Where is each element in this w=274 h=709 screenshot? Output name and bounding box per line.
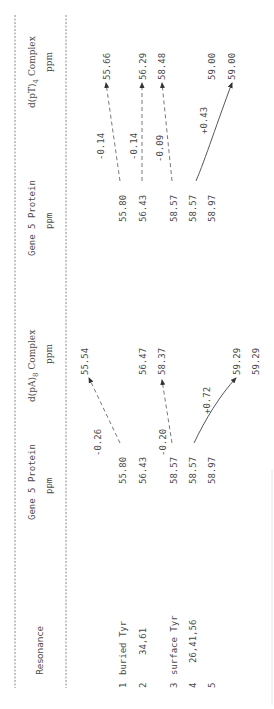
resonance-row-4: 4 26,41,56 — [188, 620, 198, 688]
svg-text:ppm: ppm — [44, 343, 54, 364]
shift-label-pa8-4: +0.72 — [202, 387, 212, 414]
svg-text:surface Tyr: surface Tyr — [169, 615, 179, 675]
dpt4-row-5: 59.00 — [227, 53, 237, 80]
gene5-a-row-3: 58.57 — [169, 457, 179, 484]
header-gene5-protein-a: Gene 5 Protein ppm — [27, 444, 54, 520]
gene5-a-row-5: 58.97 — [207, 457, 217, 484]
svg-text:1: 1 — [118, 683, 128, 688]
shift-arrow-pa8-4 — [194, 378, 236, 443]
svg-text:3: 3 — [169, 683, 179, 688]
header-gene5-protein-b: Gene 5 Protein ppm — [27, 180, 54, 256]
gene5-a-row-4: 58.57 — [188, 457, 198, 484]
svg-text:d(pA)8 Complex: d(pA)8 Complex — [27, 330, 40, 402]
svg-text:ppm: ppm — [44, 478, 54, 494]
dpa8-row-1: 55.54 — [80, 348, 90, 375]
svg-text:Gene 5 Protein: Gene 5 Protein — [27, 180, 37, 256]
svg-text:d(pT)4 Complex: d(pT)4 Complex — [27, 36, 40, 108]
svg-text:ppm: ppm — [44, 51, 54, 72]
shift-label-pa8-1: -0.26 — [93, 429, 103, 456]
resonance-row-1: 1 buried Tyr — [118, 620, 128, 688]
svg-text:Gene 5 Protein: Gene 5 Protein — [27, 444, 37, 520]
header-dpt4-complex: d(pT)4 Complex ppm — [27, 36, 54, 108]
svg-text:5: 5 — [207, 683, 217, 688]
shift-label-pt4-3: -0.09 — [155, 135, 165, 162]
dpt4-row-3: 58.48 — [157, 53, 167, 80]
shift-label-pt4-4: +0.43 — [199, 107, 209, 134]
shift-arrow-pt4-3 — [162, 83, 172, 181]
gene5-b-row-5: 58.97 — [207, 195, 217, 222]
resonance-row-2: 2 34,61 — [138, 628, 148, 688]
gene5-b-row-3: 58.57 — [169, 195, 179, 222]
gene5-b-row-2: 56.43 — [138, 195, 148, 222]
dpa8-row-3: 58.37 — [157, 348, 167, 375]
shift-label-pa8-3: -0.20 — [158, 429, 168, 456]
svg-text:4: 4 — [188, 683, 198, 688]
dpa8-row-4: 59.29 — [232, 348, 242, 375]
resonance-row-5: 5 — [207, 683, 217, 688]
header-dpa8-complex: d(pA)8 Complex ppm — [27, 330, 54, 402]
svg-text:buried Tyr: buried Tyr — [118, 620, 128, 675]
dpa8-row-2: 56.47 — [138, 348, 148, 375]
dpt4-row-4: 59.00 — [207, 53, 217, 80]
svg-text:26,41,56: 26,41,56 — [188, 620, 198, 663]
shift-arrow-pt4-1 — [106, 83, 120, 181]
gene5-a-row-1: 55.80 — [118, 457, 128, 484]
header-resonance: Resonance — [35, 626, 45, 675]
gene5-b-row-1: 55.80 — [118, 195, 128, 222]
dpa8-row-5: 59.29 — [251, 348, 261, 375]
dpt4-row-2: 56.29 — [138, 53, 148, 80]
shift-label-pt4-1: -0.14 — [96, 133, 106, 160]
dpt4-row-1: 55.66 — [102, 53, 112, 80]
resonance-row-3: 3 surface Tyr — [169, 615, 179, 688]
gene5-b-row-4: 58.57 — [188, 195, 198, 222]
gene5-a-row-2: 56.43 — [138, 457, 148, 484]
svg-text:ppm: ppm — [44, 213, 54, 229]
shift-label-pt4-2: -0.14 — [129, 133, 139, 160]
svg-text:2: 2 — [138, 683, 148, 688]
svg-text:34,61: 34,61 — [138, 628, 148, 655]
